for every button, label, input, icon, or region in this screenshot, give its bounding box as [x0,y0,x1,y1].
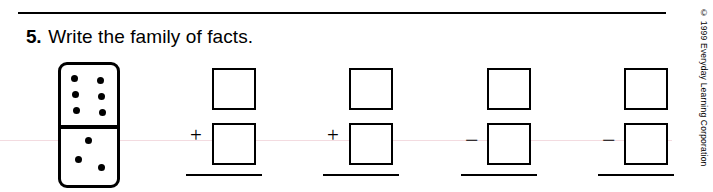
domino-divider [61,125,117,129]
answer-box-top[interactable] [349,68,393,110]
top-divider-rule [18,12,666,14]
problem-prompt: 5. Write the family of facts. [26,26,253,48]
domino-pip [71,75,78,82]
domino-pip [99,109,106,116]
answer-box-top[interactable] [212,68,256,110]
domino-pip [98,93,105,100]
number-model-2: + [305,62,417,188]
operator-symbol: − [465,128,479,152]
number-model-3: − [443,62,555,188]
operator-symbol: + [327,125,339,146]
domino-pip [97,77,104,84]
number-model-4: − [580,62,692,188]
domino-pip [73,107,80,114]
answer-box-top[interactable] [487,68,531,110]
answer-rule [186,174,262,176]
domino-pip [75,156,82,163]
answer-box-bottom[interactable] [487,123,531,165]
operator-symbol: − [602,128,616,152]
answer-box-bottom[interactable] [349,123,393,165]
answer-rule [598,174,674,176]
number-model-1: + [168,62,280,188]
problem-number: 5. [26,26,41,48]
worksheet-page: 5. Write the family of facts. + + − − [0,0,713,192]
domino-pip [98,164,105,171]
domino-pip [85,137,92,144]
answer-box-bottom[interactable] [212,123,256,165]
domino-pip [72,91,79,98]
problem-text: Write the family of facts. [48,26,253,48]
domino-tile [58,62,120,188]
answer-rule [323,174,399,176]
operator-symbol: + [190,125,202,146]
answer-rule [461,174,537,176]
copyright-notice: © 1999 Everyday Learning Corporation [695,8,709,188]
answer-box-top[interactable] [624,68,668,110]
answer-box-bottom[interactable] [624,123,668,165]
